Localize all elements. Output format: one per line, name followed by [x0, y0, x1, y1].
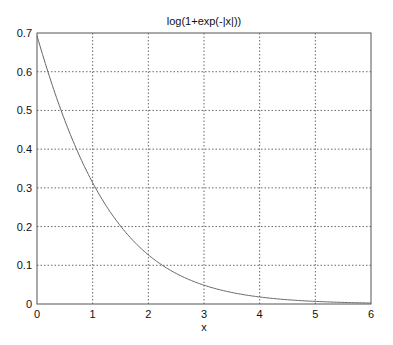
y-tick-label: 0.2	[17, 221, 32, 233]
x-tick-label: 3	[201, 308, 207, 320]
chart: 012345600.10.20.30.40.50.60.7log(1+exp(-…	[0, 0, 393, 345]
chart-title: log(1+exp(-|x|))	[167, 15, 242, 27]
y-tick-label: 0.7	[17, 27, 32, 39]
y-tick-label: 0.1	[17, 259, 32, 271]
y-tick-label: 0.3	[17, 182, 32, 194]
x-tick-label: 0	[34, 308, 40, 320]
x-tick-label: 6	[368, 308, 374, 320]
y-tick-label: 0.6	[17, 66, 32, 78]
y-tick-label: 0.4	[17, 143, 32, 155]
x-tick-label: 4	[257, 308, 263, 320]
plot-frame	[37, 33, 371, 304]
x-tick-label: 1	[90, 308, 96, 320]
y-tick-label: 0	[26, 298, 32, 310]
y-tick-label: 0.5	[17, 104, 32, 116]
x-tick-label: 5	[312, 308, 318, 320]
x-axis-label: x	[201, 321, 207, 333]
x-tick-label: 2	[145, 308, 151, 320]
